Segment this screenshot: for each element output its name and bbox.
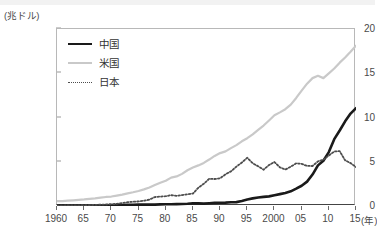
x-tick-label-80: 80 (159, 213, 170, 224)
x-tick-mark (355, 206, 356, 210)
x-tick-label-15: 15 (349, 213, 360, 224)
x-tick-label-10: 10 (322, 213, 333, 224)
x-tick-label-85: 85 (186, 213, 197, 224)
x-tick-mark (165, 206, 166, 210)
legend-item-japan: 日本 (68, 76, 119, 88)
legend-item-china: 中国 (68, 38, 119, 50)
legend-label-china: 中国 (99, 39, 119, 50)
x-tick-mark (328, 206, 329, 210)
series-line-china (57, 108, 356, 205)
x-tick-label-2000: 2000 (262, 213, 284, 224)
legend-swatch-usa-icon (68, 62, 92, 64)
x-tick-label-70: 70 (105, 213, 116, 224)
x-tick-mark (246, 206, 247, 210)
y-axis-unit-label: (兆ドル) (4, 8, 39, 22)
x-tick-label-1960: 1960 (45, 213, 67, 224)
x-tick-mark (83, 206, 84, 210)
x-tick-label-05: 05 (295, 213, 306, 224)
x-tick-label-95: 95 (241, 213, 252, 224)
legend-label-usa: 米国 (99, 58, 119, 69)
x-tick-label-75: 75 (132, 213, 143, 224)
x-tick-mark (301, 206, 302, 210)
legend-label-japan: 日本 (99, 77, 119, 88)
x-tick-mark (110, 206, 111, 210)
x-tick-mark (56, 206, 57, 210)
x-tick-label-65: 65 (78, 213, 89, 224)
x-tick-mark (219, 206, 220, 210)
top-band (0, 0, 375, 5)
x-tick-mark (138, 206, 139, 210)
legend-item-usa: 米国 (68, 57, 119, 69)
x-tick-label-90: 90 (214, 213, 225, 224)
chart-legend: 中国 米国 日本 (68, 38, 119, 88)
x-axis-unit-label: (年) (361, 213, 377, 227)
x-tick-mark (273, 206, 274, 210)
legend-swatch-japan-icon (68, 82, 92, 83)
x-tick-mark (192, 206, 193, 210)
legend-swatch-china-icon (68, 43, 92, 45)
